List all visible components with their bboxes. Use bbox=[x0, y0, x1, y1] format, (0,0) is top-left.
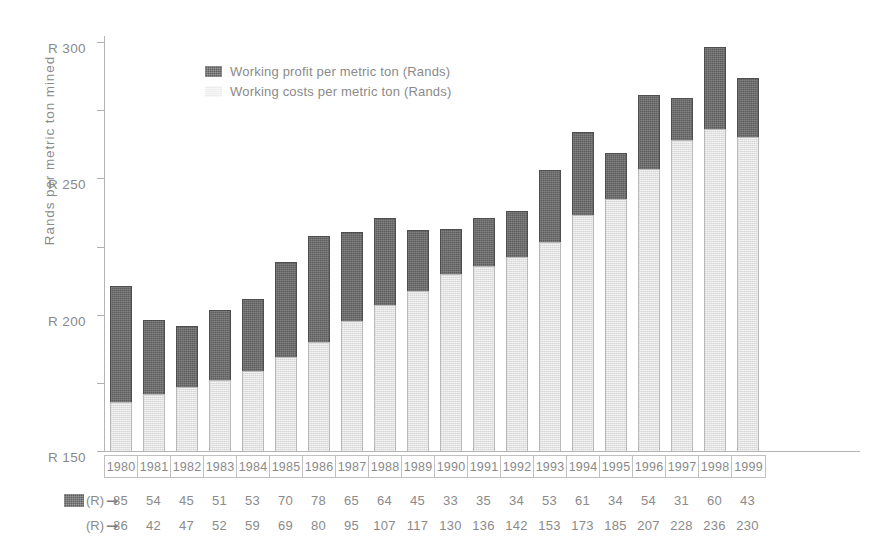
data-cell: 69 bbox=[269, 513, 302, 538]
data-row-values: 8554455153707865644533353453613454316043 bbox=[104, 488, 764, 513]
bar-segment-profit bbox=[440, 229, 462, 274]
bar-group bbox=[737, 78, 759, 451]
x-axis-year-1994: 1994 bbox=[567, 456, 600, 477]
bar-segment-costs bbox=[704, 129, 726, 451]
y-tick-150: R 150 bbox=[97, 247, 104, 248]
x-axis-year-1997: 1997 bbox=[666, 456, 699, 477]
x-axis-year-1989: 1989 bbox=[402, 456, 435, 477]
bar-segment-costs bbox=[506, 257, 528, 451]
data-cell: 51 bbox=[203, 488, 236, 513]
bar-segment-costs bbox=[407, 291, 429, 451]
x-axis-year-1982: 1982 bbox=[171, 456, 204, 477]
bar-segment-costs bbox=[308, 342, 330, 451]
x-axis-year-1980: 1980 bbox=[105, 456, 138, 477]
data-cell: 142 bbox=[500, 513, 533, 538]
data-cell: 117 bbox=[401, 513, 434, 538]
data-cell: 42 bbox=[137, 513, 170, 538]
data-table-row: (R)➞855445515370786564453335345361345431… bbox=[0, 488, 869, 513]
costs-swatch-icon bbox=[64, 519, 84, 532]
data-cell: 47 bbox=[170, 513, 203, 538]
data-row-unit-label: (R) bbox=[86, 493, 104, 508]
y-tick-250: R 250 bbox=[97, 110, 104, 111]
data-cell: 54 bbox=[632, 488, 665, 513]
bar-group bbox=[440, 229, 462, 451]
bar-segment-costs bbox=[737, 137, 759, 451]
y-tick-200: R 200 bbox=[97, 178, 104, 179]
bar-group bbox=[671, 98, 693, 451]
bar-segment-costs bbox=[638, 169, 660, 451]
y-tick-300: R 300 bbox=[97, 42, 104, 43]
bar-group bbox=[473, 218, 495, 451]
data-cell: 36 bbox=[104, 513, 137, 538]
data-cell: 95 bbox=[335, 513, 368, 538]
bar-segment-profit bbox=[473, 218, 495, 266]
bar-segment-profit bbox=[275, 262, 297, 357]
y-tick-label-300: R 300 bbox=[48, 41, 86, 56]
data-cell: 185 bbox=[599, 513, 632, 538]
data-cell: 136 bbox=[467, 513, 500, 538]
x-axis-year-1998: 1998 bbox=[699, 456, 732, 477]
bar-group bbox=[209, 310, 231, 451]
profit-swatch-icon bbox=[205, 66, 222, 77]
data-cell: 70 bbox=[269, 488, 302, 513]
bar-segment-costs bbox=[275, 357, 297, 451]
data-cell: 65 bbox=[335, 488, 368, 513]
bar-segment-costs bbox=[242, 371, 264, 451]
data-cell: 228 bbox=[665, 513, 698, 538]
x-axis-year-1992: 1992 bbox=[501, 456, 534, 477]
bar-segment-profit bbox=[407, 230, 429, 291]
data-cell: 107 bbox=[368, 513, 401, 538]
data-cell: 207 bbox=[632, 513, 665, 538]
legend-label-costs: Working costs per metric ton (Rands) bbox=[230, 84, 452, 99]
bar-segment-costs bbox=[341, 321, 363, 451]
bar-group bbox=[275, 262, 297, 451]
bar-group bbox=[638, 95, 660, 451]
bar-segment-profit bbox=[671, 98, 693, 140]
data-cell: 53 bbox=[236, 488, 269, 513]
x-axis-year-1986: 1986 bbox=[303, 456, 336, 477]
data-row-unit-label: (R) bbox=[86, 518, 104, 533]
data-cell: 43 bbox=[731, 488, 764, 513]
bar-group bbox=[341, 232, 363, 451]
data-cell: 59 bbox=[236, 513, 269, 538]
data-value-table: (R)➞855445515370786564453335345361345431… bbox=[0, 488, 869, 538]
x-axis-year-1988: 1988 bbox=[369, 456, 402, 477]
y-tick-label-200: R 200 bbox=[48, 313, 86, 328]
legend-item-profit: Working profit per metric ton (Rands) bbox=[205, 61, 452, 81]
bar-group bbox=[407, 230, 429, 451]
bar-segment-costs bbox=[176, 387, 198, 451]
x-axis-year-1995: 1995 bbox=[600, 456, 633, 477]
bar-segment-profit bbox=[110, 286, 132, 402]
x-axis-year-1993: 1993 bbox=[534, 456, 567, 477]
y-tick-0: 0 bbox=[97, 451, 104, 452]
bar-segment-costs bbox=[209, 380, 231, 451]
x-axis-year-1984: 1984 bbox=[237, 456, 270, 477]
bar-segment-profit bbox=[143, 320, 165, 394]
bar-segment-profit bbox=[572, 132, 594, 215]
data-cell: 80 bbox=[302, 513, 335, 538]
x-axis-year-1990: 1990 bbox=[435, 456, 468, 477]
x-axis-year-1987: 1987 bbox=[336, 456, 369, 477]
data-cell: 33 bbox=[434, 488, 467, 513]
bar-group bbox=[308, 236, 330, 451]
bar-segment-profit bbox=[308, 236, 330, 342]
data-cell: 78 bbox=[302, 488, 335, 513]
data-cell: 61 bbox=[566, 488, 599, 513]
data-row-head: (R) bbox=[34, 513, 104, 538]
data-table-row: (R)➞364247525969809510711713013614215317… bbox=[0, 513, 869, 538]
y-tick-50: R 50 bbox=[97, 383, 104, 384]
bar-group bbox=[176, 326, 198, 451]
bar-group bbox=[605, 153, 627, 451]
data-cell: 173 bbox=[566, 513, 599, 538]
chart-legend: Working profit per metric ton (Rands) Wo… bbox=[205, 61, 452, 101]
bar-segment-profit bbox=[341, 232, 363, 321]
x-axis-year-1999: 1999 bbox=[732, 456, 765, 477]
legend-label-profit: Working profit per metric ton (Rands) bbox=[230, 64, 450, 79]
bar-group bbox=[374, 218, 396, 451]
x-axis-year-1991: 1991 bbox=[468, 456, 501, 477]
data-cell: 153 bbox=[533, 513, 566, 538]
bar-segment-costs bbox=[671, 140, 693, 451]
data-cell: 31 bbox=[665, 488, 698, 513]
y-tick-label-250: R 250 bbox=[48, 177, 86, 192]
data-cell: 45 bbox=[170, 488, 203, 513]
